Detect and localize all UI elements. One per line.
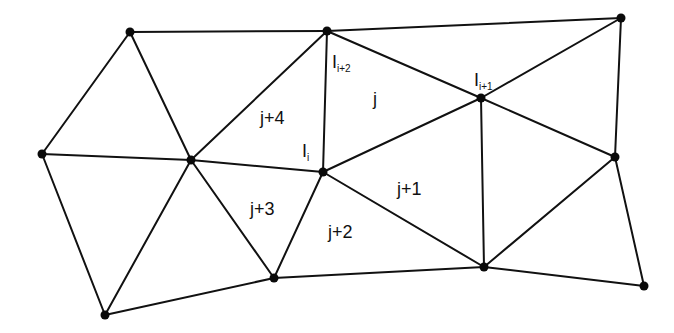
mesh-node	[323, 27, 332, 36]
label-node-i1-group: Ii+1	[474, 70, 493, 92]
mesh-edge	[323, 98, 481, 172]
label-triangle-j-plus-4: j+4	[259, 108, 285, 128]
mesh-edge	[481, 18, 621, 98]
label-node-i-plus-1: Ii+1	[474, 70, 493, 92]
mesh-edge	[105, 278, 274, 315]
mesh-edge	[615, 157, 644, 286]
mesh-node	[477, 94, 486, 103]
mesh-edge	[274, 267, 484, 278]
mesh-node	[617, 14, 626, 23]
mesh-edge	[42, 154, 191, 160]
mesh-node	[640, 282, 649, 291]
mesh-edge	[42, 32, 130, 154]
mesh-edge	[481, 98, 615, 157]
label-triangle-j-plus-3: j+3	[249, 199, 275, 219]
mesh-edge	[191, 160, 323, 172]
label-triangle-j: j	[372, 89, 377, 109]
triangular-mesh-diagram: Ii Ii+1 Ii+2 j j+1 j+2 j+3 j+4	[0, 0, 674, 333]
mesh-edge	[105, 160, 191, 315]
mesh-node	[611, 153, 620, 162]
mesh-node	[480, 263, 489, 272]
mesh-node	[38, 150, 47, 159]
mesh-edge	[484, 157, 615, 267]
mesh-node	[319, 168, 328, 177]
mesh-edge	[274, 172, 323, 278]
mesh-edge	[323, 31, 327, 172]
mesh-edge	[327, 18, 621, 31]
mesh-edge	[130, 31, 327, 32]
mesh-node	[126, 28, 135, 37]
label-node-i-base: Ii	[302, 141, 309, 163]
mesh-edge	[191, 160, 274, 278]
mesh-edge	[484, 267, 644, 286]
label-node-i-group: Ii	[302, 141, 309, 163]
mesh-edge	[481, 98, 484, 267]
mesh-node	[187, 156, 196, 165]
mesh-edge	[130, 32, 191, 160]
mesh-node	[101, 311, 110, 320]
label-node-i2-group: Ii+2	[332, 52, 351, 74]
label-triangle-j-plus-2: j+2	[327, 222, 353, 242]
mesh-edge	[42, 154, 105, 315]
mesh-node	[270, 274, 279, 283]
label-node-i-plus-2: Ii+2	[332, 52, 351, 74]
mesh-edge	[615, 18, 621, 157]
label-triangle-j-plus-1: j+1	[396, 179, 422, 199]
